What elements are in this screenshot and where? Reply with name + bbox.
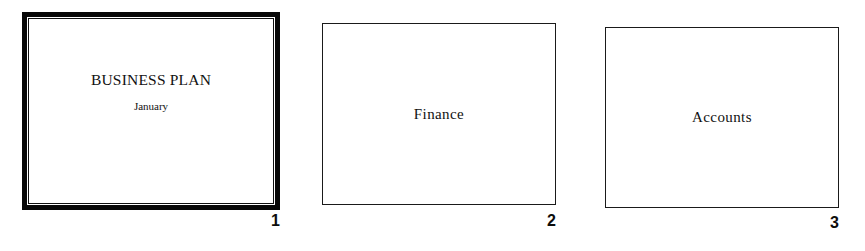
slide-3-page[interactable]: Accounts: [605, 27, 839, 208]
slide-2-content: Finance: [323, 24, 555, 204]
slide-2-page[interactable]: Finance: [322, 23, 556, 205]
slide-1-content: BUSINESS PLAN January: [29, 19, 273, 203]
slide-number-1: 1: [210, 213, 280, 229]
slide-3-title: Accounts: [692, 109, 752, 126]
slide-3-content: Accounts: [606, 28, 838, 207]
slide-number-2: 2: [486, 213, 556, 229]
slide-1-selection-border[interactable]: BUSINESS PLAN January: [22, 12, 280, 210]
slide-thumbnail-2[interactable]: Finance: [322, 23, 556, 205]
slide-1-page: BUSINESS PLAN January: [28, 18, 274, 204]
slide-thumbnail-1[interactable]: BUSINESS PLAN January: [22, 12, 280, 210]
slide-2-title: Finance: [414, 106, 464, 123]
slide-sorter-view: BUSINESS PLAN January 1 Finance 2 Accoun…: [0, 0, 865, 251]
slide-1-title: BUSINESS PLAN: [91, 71, 211, 88]
slide-thumbnail-3[interactable]: Accounts: [605, 27, 839, 208]
slide-1-subtitle: January: [134, 100, 168, 112]
slide-number-3: 3: [769, 215, 839, 231]
